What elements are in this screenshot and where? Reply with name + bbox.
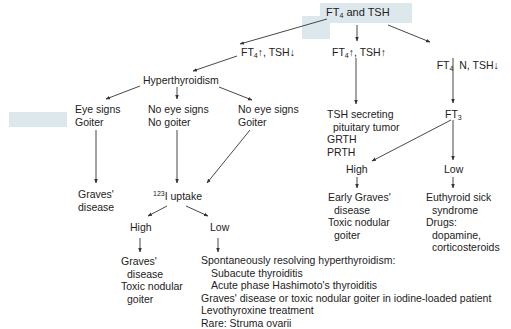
iodine-loaded-item: Graves' disease or toxic nodular goiter … (201, 292, 491, 305)
hyperthyroidism-label: Hyperthyroidism (143, 74, 219, 86)
thyroid-function-flowchart: FT4 and TSH FT4↑, TSH↓ FT4↑, TSH↑ FT4 N,… (0, 0, 511, 329)
uptake-label: I uptake (165, 190, 202, 202)
no-eye-signs-label-2: No eye signs (238, 103, 299, 116)
ft3-low-label: Low (444, 163, 463, 175)
branch-ft4-high-tsh-low: FT4↑, TSH↓ (241, 46, 295, 59)
graves-label-2: Graves' (121, 255, 183, 268)
subacute-thyroiditis-item: Subacute thyroiditis (201, 267, 491, 280)
grth-label: GRTH (327, 133, 400, 146)
uptake-low-node: Low (210, 221, 229, 234)
ft3-low-node: Low (444, 163, 463, 176)
eye-signs-goiter-node: Eye signs Goiter (75, 103, 121, 128)
struma-ovarii-item: Rare: Struma ovarii (201, 317, 491, 329)
branch-b-prefix: FT (332, 46, 345, 58)
branch-a-suffix: ↑, TSH↓ (258, 46, 295, 58)
uptake-low-result-node: Spontaneously resolving hyperthyroidism:… (201, 254, 491, 329)
root-node-ft4-and-tsh: FT4 and TSH (326, 6, 390, 19)
branch-c-prefix: FT (437, 59, 450, 71)
ft3-prefix: FT (445, 108, 458, 120)
spontaneously-resolving-heading: Spontaneously resolving hyperthyroidism: (201, 254, 491, 267)
no-goiter-label: No goiter (148, 116, 209, 129)
uptake-low-label: Low (210, 221, 229, 233)
goiter-label-4: goiter (328, 229, 391, 242)
root-label-suffix: and TSH (343, 6, 389, 18)
goiter-label-3: goiter (121, 293, 183, 306)
graves-disease-node: Graves' disease (78, 188, 114, 213)
uptake-isotope-superscript: 123 (153, 190, 165, 197)
uptake-high-node: High (130, 221, 152, 234)
uptake-high-result-node: Graves' disease Toxic nodular goiter (121, 255, 183, 305)
toxic-nodular-label-2: Toxic nodular (328, 216, 391, 229)
euthyroid-sick-label: Euthyroid sick (426, 191, 500, 204)
no-eye-signs-label: No eye signs (148, 103, 209, 116)
branch-ft4-high-tsh-high: FT4↑, TSH↑ (332, 46, 386, 59)
hashimoto-thyroiditis-item: Acute phase Hashimoto's thyroiditis (201, 279, 491, 292)
ft3-node: FT3 (445, 108, 462, 121)
root-label-prefix: FT (326, 6, 339, 18)
syndrome-label: syndrome (426, 204, 500, 217)
no-eye-signs-goiter-node: No eye signs Goiter (238, 103, 299, 128)
corticosteroids-label: corticosteroids (426, 241, 500, 254)
levothyroxine-item: Levothyroxine treatment (201, 304, 491, 317)
ft3-subscript: 3 (458, 114, 462, 121)
tsh-secreting-label: TSH secreting (327, 108, 400, 121)
branch-c-suffix: N, TSH↓ (453, 59, 498, 71)
disease-label-3: disease (328, 204, 391, 217)
graves-label: Graves' (78, 188, 114, 201)
toxic-nodular-label: Toxic nodular (121, 280, 183, 293)
branch-ft4-normal-tsh-low: FT4 N, TSH↓ (425, 46, 499, 84)
goiter-label: Goiter (75, 116, 121, 129)
branch-a-prefix: FT (241, 46, 254, 58)
ft3-low-result-node: Euthyroid sick syndrome Drugs: dopamine,… (426, 191, 500, 254)
ft3-high-label: High (346, 163, 368, 175)
disease-label-2: disease (121, 268, 183, 281)
dopamine-label: dopamine, (426, 229, 500, 242)
branch-b-suffix: ↑, TSH↑ (349, 46, 386, 58)
disease-label: disease (78, 201, 114, 214)
prth-label: PRTH (327, 146, 400, 159)
eye-signs-label: Eye signs (75, 103, 121, 116)
drugs-label: Drugs: (426, 216, 500, 229)
uptake-high-label: High (130, 221, 152, 233)
hyperthyroidism-node: Hyperthyroidism (143, 74, 219, 87)
pituitary-tumor-label: pituitary tumor (327, 121, 400, 134)
ft3-high-result-node: Early Graves' disease Toxic nodular goit… (328, 191, 391, 241)
no-eye-signs-no-goiter-node: No eye signs No goiter (148, 103, 209, 128)
tsh-high-causes-node: TSH secreting pituitary tumor GRTH PRTH (327, 108, 400, 158)
goiter-label-2: Goiter (238, 116, 299, 129)
iodine-uptake-node: 123I uptake (153, 190, 202, 203)
ft3-high-node: High (346, 163, 368, 176)
early-graves-label: Early Graves' (328, 191, 391, 204)
